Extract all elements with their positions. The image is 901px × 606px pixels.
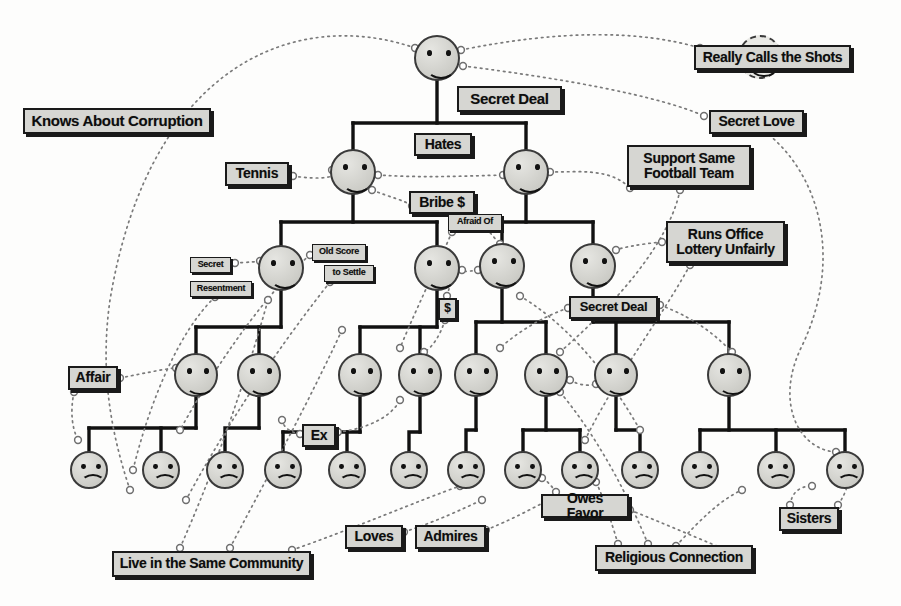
face-eye [516, 164, 521, 170]
face-eye [492, 258, 497, 264]
relation-endpoint [659, 239, 666, 246]
person-face-sad[interactable] [447, 451, 485, 489]
relation-endpoint [75, 437, 82, 444]
person-face-happy[interactable] [330, 149, 376, 195]
person-face-happy[interactable] [414, 35, 460, 81]
label-secret[interactable]: Secret [190, 257, 231, 273]
relation-line-affair-path [120, 368, 176, 378]
label-bribe[interactable]: Bribe $ [409, 191, 475, 214]
face-eye [204, 368, 209, 374]
face-eye [572, 464, 576, 469]
relation-endpoint [397, 345, 404, 352]
face-eye [267, 368, 272, 374]
relation-endpoint [339, 327, 346, 334]
person-face-sad[interactable] [328, 451, 366, 489]
label-resentment[interactable]: Resentment [190, 281, 252, 297]
label-live-in-the-same-community[interactable]: Live in the Same Community [112, 551, 311, 577]
label-afraid-of[interactable]: Afraid Of [448, 214, 502, 231]
face-mouth-sad [401, 474, 425, 492]
label-secret-love[interactable]: Secret Love [709, 110, 804, 134]
person-face-sad[interactable] [206, 451, 244, 489]
person-face-happy[interactable] [454, 353, 498, 397]
label-to-settle[interactable]: to Settle [324, 265, 374, 282]
person-face-happy[interactable] [707, 353, 751, 397]
face-eye [624, 368, 629, 374]
face-eye [427, 260, 432, 266]
person-face-happy[interactable] [414, 245, 460, 291]
face-eye [707, 464, 711, 469]
person-face-happy[interactable] [479, 243, 525, 289]
label-secret-deal-mid[interactable]: Secret Deal [569, 296, 658, 319]
face-mouth-happy [492, 266, 520, 287]
relation-endpoint [517, 293, 524, 300]
face-eye [607, 368, 612, 374]
person-face-happy[interactable] [570, 243, 616, 289]
face-eye [511, 258, 516, 264]
person-face-sad[interactable] [504, 451, 542, 489]
face-eye [692, 464, 696, 469]
person-face-happy[interactable] [594, 353, 638, 397]
face-mouth-happy [466, 375, 493, 395]
face-eye [411, 368, 416, 374]
face-eye [416, 464, 420, 469]
person-face-sad[interactable] [142, 451, 180, 489]
person-face-happy[interactable] [237, 353, 281, 397]
label-runs-office-lottery[interactable]: Runs Office Lottery Unfairly [666, 221, 785, 263]
label-loves[interactable]: Loves [345, 525, 403, 549]
relation-endpoint [397, 397, 404, 404]
person-face-sad[interactable] [757, 451, 795, 489]
tree-branch [409, 432, 420, 451]
label-sisters[interactable]: Sisters [779, 507, 839, 531]
label-ex[interactable]: Ex [302, 424, 336, 447]
relation-endpoint [232, 260, 239, 267]
label-tennis[interactable]: Tennis [225, 162, 289, 186]
person-face-sad[interactable] [390, 451, 428, 489]
person-face-sad[interactable] [70, 451, 108, 489]
person-face-sad[interactable] [264, 451, 302, 489]
person-face-happy[interactable] [258, 245, 304, 291]
face-eye [473, 464, 477, 469]
face-eye [768, 464, 772, 469]
face-eye [232, 464, 236, 469]
label-owes-favor[interactable]: Owes Favor [541, 494, 629, 518]
relation-line-religious-c [676, 490, 742, 546]
relation-endpoint [130, 467, 137, 474]
label-religious-connection[interactable]: Religious Connection [595, 545, 753, 571]
face-eye [153, 464, 157, 469]
label-dollar[interactable]: $ [438, 298, 457, 320]
person-face-happy[interactable] [524, 353, 568, 397]
person-face-sad[interactable] [826, 451, 864, 489]
relation-line-live-same-comm-a [180, 300, 268, 548]
label-affair[interactable]: Affair [68, 366, 118, 390]
person-face-sad[interactable] [621, 451, 659, 489]
relation-line-dollar-b [424, 320, 445, 352]
label-admires[interactable]: Admires [415, 525, 486, 549]
relation-endpoint [557, 349, 564, 356]
relation-endpoint [177, 427, 184, 434]
label-knows-about-corruption[interactable]: Knows About Corruption [23, 108, 211, 134]
person-face-happy[interactable] [338, 353, 382, 397]
relation-line-secret-deal-mid-a [500, 308, 568, 348]
face-eye [837, 464, 841, 469]
person-face-happy[interactable] [398, 353, 442, 397]
relation-line-runs-lottery-in [616, 242, 662, 250]
label-secret-deal-top[interactable]: Secret Deal [457, 86, 562, 112]
person-face-happy[interactable] [503, 149, 549, 195]
face-eye [852, 464, 856, 469]
face-mouth-happy [427, 58, 455, 79]
relation-endpoint [479, 497, 486, 504]
label-old-score[interactable]: Old Score [312, 244, 366, 261]
label-hates[interactable]: Hates [414, 133, 472, 156]
tree-branch [225, 428, 259, 451]
face-eye [339, 464, 343, 469]
relation-line-secret-deal-top [461, 35, 700, 50]
label-really-calls-the-shots[interactable]: Really Calls the Shots [694, 45, 851, 70]
face-mouth-happy [719, 375, 746, 395]
relation-endpoint [279, 417, 286, 424]
person-face-happy[interactable] [174, 353, 218, 397]
person-face-sad[interactable] [681, 451, 719, 489]
person-face-sad[interactable] [561, 451, 599, 489]
relation-line-sisters-path [790, 486, 812, 505]
face-eye [720, 368, 725, 374]
label-support-same-football-team[interactable]: Support Same Football Team [627, 145, 751, 187]
